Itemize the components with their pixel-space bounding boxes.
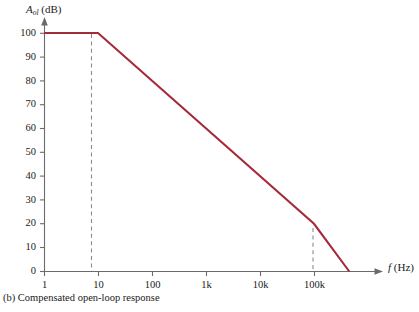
x-tick-label-1k: 1k [186,280,227,291]
y-tick-label-90: 90 [4,52,36,63]
y-tick-label-60: 60 [4,123,36,134]
y-tick-label-50: 50 [4,147,36,158]
figure-compensated-open-loop-response: 100 90 80 70 60 50 40 30 20 10 0 1 10 10… [0,0,419,312]
y-tick-label-30: 30 [4,195,36,206]
y-tick-label-20: 20 [4,218,36,229]
y-axis-title-unit: (dB) [41,3,61,15]
y-axis-arrow-icon [41,17,48,26]
x-axis-title-unit: (Hz) [394,261,414,273]
y-tick-label-70: 70 [4,99,36,110]
figure-caption: (b) Compensated open-loop response [3,293,160,304]
open-loop-gain-curve [44,33,349,272]
y-tick-label-40: 40 [4,171,36,182]
y-axis-title: Aol (dB) [26,4,62,15]
x-tick-label-10: 10 [78,280,119,291]
y-tick-label-10: 10 [4,242,36,253]
x-tick-label-100: 100 [132,280,173,291]
y-axis-title-subscript: ol [33,8,39,17]
y-tick-marks [40,33,45,271]
x-tick-label-100k: 100k [294,280,335,291]
x-tick-label-1: 1 [24,280,65,291]
y-axis-title-symbol: A [26,3,33,15]
x-tick-marks [45,272,315,277]
y-tick-label-0: 0 [4,266,36,277]
x-axis-arrow-icon [375,268,384,275]
y-tick-label-100: 100 [4,28,36,39]
y-tick-label-80: 80 [4,76,36,87]
x-tick-label-10k: 10k [240,280,281,291]
x-axis-title: f (Hz) [388,262,414,273]
plot-area [0,0,419,312]
